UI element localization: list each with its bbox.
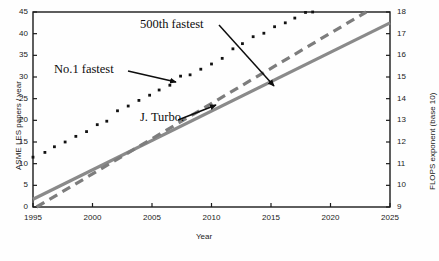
annotation-500th-fastest: 500th fastest [140, 17, 204, 32]
y-right-tick-15: 15 [397, 72, 415, 81]
y-left-tick-45: 45 [8, 7, 28, 16]
x-axis-title: Year [196, 232, 212, 241]
y-left-tick-20: 20 [8, 115, 28, 124]
x-tick-2015: 2015 [258, 213, 284, 222]
y-left-tick-35: 35 [8, 50, 28, 59]
y-left-tick-5: 5 [8, 180, 28, 189]
y-right-tick-13: 13 [397, 115, 415, 124]
y-right-tick-16: 16 [397, 50, 415, 59]
x-tick-2005: 2005 [139, 213, 165, 222]
figure-container: ASME LES papers / year FLOPS exponent (b… [0, 0, 439, 261]
y-right-tick-14: 14 [397, 94, 415, 103]
y-left-tick-25: 25 [8, 94, 28, 103]
y-left-tick-10: 10 [8, 159, 28, 168]
annotation-no1-fastest: No.1 fastest [54, 62, 114, 77]
x-tick-1995: 1995 [20, 213, 46, 222]
x-tick-2000: 2000 [80, 213, 106, 222]
y-right-tick-11: 11 [397, 159, 415, 168]
x-tick-2020: 2020 [318, 213, 344, 222]
y-right-tick-12: 12 [397, 137, 415, 146]
y-left-tick-0: 0 [8, 202, 28, 211]
x-tick-2010: 2010 [199, 213, 225, 222]
y-right-tick-9: 9 [397, 202, 415, 211]
y-right-tick-18: 18 [397, 7, 415, 16]
annotation-j-turbo: J. Turbo. [140, 110, 184, 125]
x-tick-2025: 2025 [377, 213, 403, 222]
y-right-tick-10: 10 [397, 180, 415, 189]
y-left-tick-30: 30 [8, 72, 28, 81]
y-axis-right-title: FLOPS exponent (base 10) [428, 93, 437, 190]
y-left-tick-15: 15 [8, 137, 28, 146]
y-left-tick-40: 40 [8, 29, 28, 38]
y-right-tick-17: 17 [397, 29, 415, 38]
